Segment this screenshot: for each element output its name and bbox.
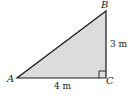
side-label-ac: 4 m bbox=[54, 82, 71, 91]
vertex-label-c: C bbox=[106, 76, 114, 86]
vertex-label-b: B bbox=[101, 0, 108, 10]
vertex-label-a: A bbox=[7, 74, 14, 84]
side-label-bc: 3 m bbox=[110, 40, 127, 49]
triangle-abc bbox=[17, 11, 106, 78]
right-triangle-figure: B A C 3 m 4 m bbox=[0, 0, 136, 99]
